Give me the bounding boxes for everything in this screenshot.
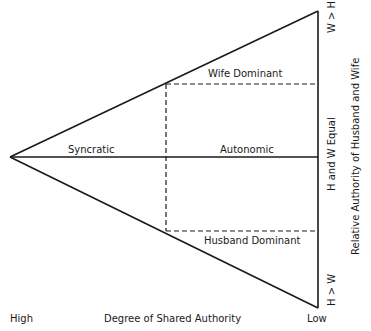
lower-edge [10, 157, 318, 308]
region-label-autonomic: Autonomic [220, 145, 274, 155]
region-label-husband-dominant: Husband Dominant [204, 236, 300, 246]
region-label-syncratic: Syncratic [68, 145, 115, 155]
y-axis-top-label: W > H [327, 1, 337, 33]
y-axis-bottom-label: H > W [327, 274, 337, 306]
x-axis-left-label: High [10, 314, 33, 324]
region-label-wife-dominant: Wife Dominant [208, 69, 282, 79]
x-axis-right-label: Low [307, 314, 327, 324]
y-axis-middle-label: H and W Equal [327, 117, 337, 191]
x-axis-title: Degree of Shared Authority [104, 314, 241, 324]
triangle-diagram [0, 0, 371, 331]
y-axis-title: Relative Authority of Husband and Wife [351, 58, 361, 255]
